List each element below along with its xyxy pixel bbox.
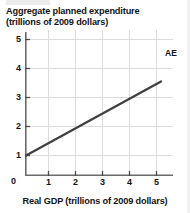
y-axis-title: Aggregate planned expenditure (trillions… (6, 6, 184, 28)
y-axis-title-line-1: Aggregate planned expenditure (6, 6, 140, 16)
x-tick-label-1: 1 (42, 178, 56, 187)
horizontal-gridlines (25, 40, 173, 156)
y-tick-label-1: 1 (7, 151, 21, 160)
y-tick-label-3: 3 (7, 93, 21, 102)
plot-area (25, 30, 173, 176)
vertical-gridlines (49, 30, 157, 176)
x-axis-title: Real GDP (trillions of 2009 dollars) (0, 196, 190, 206)
y-tick-label-4: 4 (7, 64, 21, 73)
chart-figure: Aggregate planned expenditure (trillions… (0, 0, 190, 213)
series-label-ae: AE (165, 48, 177, 58)
y-tick-label-5: 5 (7, 35, 21, 44)
x-tick-label-3: 3 (96, 178, 110, 187)
x-tick-label-5: 5 (150, 178, 164, 187)
origin-tick-label: 0 (11, 177, 16, 186)
y-tick-label-2: 2 (7, 122, 21, 131)
scan-artifact (6, 0, 50, 5)
x-tick-label-2: 2 (69, 178, 83, 187)
page-edge-shade (187, 0, 190, 213)
y-axis-title-line-2: (trillions of 2009 dollars) (6, 17, 184, 28)
series-line-ae (26, 82, 161, 156)
x-tick-label-4: 4 (123, 178, 137, 187)
